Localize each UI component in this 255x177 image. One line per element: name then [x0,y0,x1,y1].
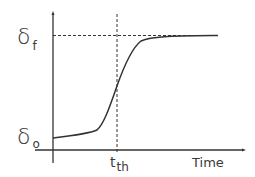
delta-f-label: δf [17,26,35,48]
t-threshold-label: tth [110,152,128,171]
t-threshold-subscript: th [117,160,129,174]
delta-o-subscript: o [32,137,39,151]
sigmoid-curve [53,36,218,139]
x-axis-arrow-icon [242,149,246,152]
delta-o-label: δo [17,126,38,148]
delta-f-subscript: f [32,39,36,53]
t-threshold-symbol: t [110,154,116,170]
y-axis-arrow-icon [52,11,55,15]
time-axis-label: Time [192,155,224,170]
delta-f-symbol: δ [17,24,30,49]
delta-o-symbol: δ [17,124,30,149]
